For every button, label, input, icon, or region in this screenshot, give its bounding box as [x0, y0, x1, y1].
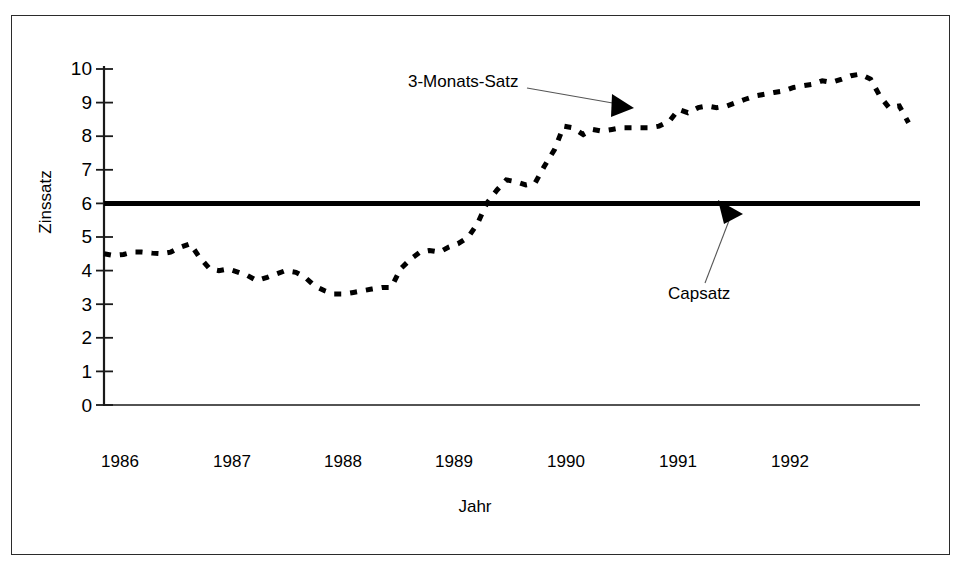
chart-figure: 10 9 8 7 6 5 4 3 2 1 0 1986 1987 1988 19…	[0, 0, 964, 576]
annotation-arrow-capsatz	[705, 200, 743, 283]
plot-area	[0, 0, 964, 576]
three-month-rate-series	[104, 74, 909, 294]
annotation-arrow-3-monats-satz	[527, 88, 634, 117]
